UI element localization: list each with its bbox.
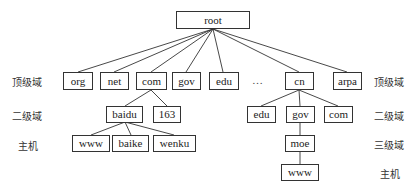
node-net: net xyxy=(100,72,129,90)
node-edu: edu xyxy=(209,72,239,90)
node-www-moe: www xyxy=(281,164,319,181)
node-arpa: arpa xyxy=(333,72,362,90)
node-cn-edu: edu xyxy=(247,106,276,123)
node-com: com xyxy=(136,72,167,90)
node-wenku: wenku xyxy=(153,135,196,152)
node-cn-gov: gov xyxy=(286,106,315,123)
node-cn: cn xyxy=(285,72,314,90)
label-left-sld: 二级域 xyxy=(12,108,42,123)
label-right-3ld: 三级域 xyxy=(374,137,404,152)
node-moe: moe xyxy=(285,135,315,152)
node-gov: gov xyxy=(172,72,201,90)
node-root: root xyxy=(176,11,250,29)
node-cn-com: com xyxy=(324,106,353,123)
node-baike: baike xyxy=(112,135,149,152)
label-left-tld: 顶级域 xyxy=(12,74,42,89)
ellipsis: … xyxy=(252,74,263,86)
node-baidu: baidu xyxy=(106,106,143,123)
node-www-baidu: www xyxy=(72,135,110,152)
label-left-host: 主机 xyxy=(18,138,38,153)
node-org: org xyxy=(63,72,93,90)
node-163: 163 xyxy=(153,106,181,123)
label-right-tld: 顶级域 xyxy=(374,74,404,89)
label-right-host: 主机 xyxy=(380,166,400,181)
label-right-sld: 二级域 xyxy=(374,108,404,123)
